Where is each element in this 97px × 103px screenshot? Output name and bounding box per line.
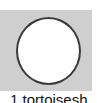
swatch-box <box>0 10 92 91</box>
caption-label: 1 tortoisesh <box>10 92 88 103</box>
circle-shape <box>16 17 81 85</box>
